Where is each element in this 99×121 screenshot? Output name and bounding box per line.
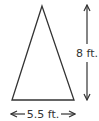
base-label: 5.5 ft. — [27, 108, 59, 121]
height-label: 8 ft. — [76, 47, 98, 60]
triangle-diagram: 8 ft. 5.5 ft. — [0, 0, 99, 121]
triangle-shape — [12, 6, 74, 100]
